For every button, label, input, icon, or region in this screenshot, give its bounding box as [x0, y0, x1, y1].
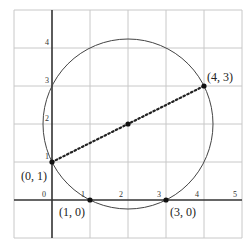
point-0-1: [49, 159, 54, 164]
coordinate-plane: 0 1 2 3 4 5 1 2 3 4 (0, 1) (4, 3) (1, 0)…: [0, 0, 252, 250]
x-tick-2: 2: [119, 190, 123, 199]
x-tick-5: 5: [233, 190, 237, 199]
label-point-0-1: (0, 1): [21, 169, 47, 183]
y-tick-2: 2: [45, 114, 49, 123]
label-point-1-0: (1, 0): [59, 205, 85, 219]
label-point-3-0: (3, 0): [170, 205, 196, 219]
point-1-0: [87, 197, 92, 202]
point-3-0: [163, 197, 168, 202]
label-point-4-3: (4, 3): [207, 70, 233, 84]
point-4-3: [201, 83, 206, 88]
y-tick-3: 3: [45, 76, 49, 85]
x-tick-4: 4: [195, 190, 199, 199]
center-point: [125, 121, 130, 126]
x-tick-3: 3: [157, 190, 161, 199]
x-tick-0: 0: [42, 190, 46, 199]
x-tick-1: 1: [81, 190, 85, 199]
y-tick-4: 4: [45, 38, 49, 47]
y-tick-1: 1: [45, 152, 49, 161]
